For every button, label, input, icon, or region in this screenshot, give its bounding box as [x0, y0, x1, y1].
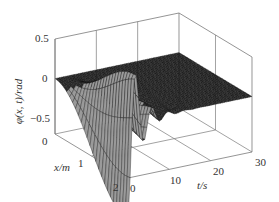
z-tick-0.5: 0.5: [35, 33, 49, 44]
t-tick-10: 10: [170, 175, 181, 186]
x-tick-0: 0: [42, 136, 48, 147]
surface-mesh: [55, 53, 252, 202]
x-axis-title: x/m: [54, 162, 70, 173]
z-tick--0.5: −0.5: [30, 113, 50, 124]
surface-plot: [0, 0, 279, 202]
t-tick-30: 30: [255, 157, 266, 168]
x-tick-1: 1: [78, 158, 84, 169]
z-tick-0: 0: [42, 73, 48, 84]
t-tick-0: 0: [130, 183, 136, 194]
z-axis-title: φ(x, t)/rad: [13, 79, 24, 124]
x-tick-2: 2: [113, 182, 119, 193]
t-tick-20: 20: [213, 166, 224, 177]
t-axis-title: t/s: [197, 180, 207, 191]
